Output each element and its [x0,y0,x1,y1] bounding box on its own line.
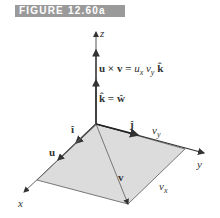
j-hat-label: ĵ [130,118,134,130]
u-label: u [49,146,55,158]
vy-label: vy [152,124,160,141]
cross-product-label: u × v = ux vy k̂ [99,62,163,79]
k-equals-w-label: k̂ = ŵ [99,92,125,104]
i-hat-label: î [71,123,74,135]
x-axis-label: x [18,197,23,209]
vx-label: vx [159,180,167,197]
v-label: v [118,171,124,183]
coordinate-diagram [0,0,220,218]
z-axis-label: z [100,27,104,39]
y-axis-label: y [197,158,202,170]
